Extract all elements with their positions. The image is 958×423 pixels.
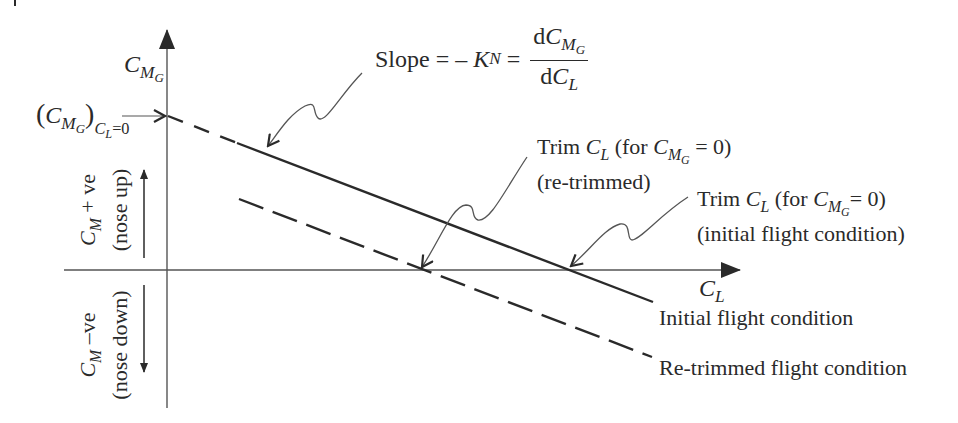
numerator-d: d: [533, 23, 545, 49]
denominator-symbol: C: [552, 63, 568, 89]
trim-diagram: CMG CL (CMG)CL=0 Slope = – KN = dCMG dCL…: [0, 0, 958, 423]
slope-label: Slope = – KN = dCMG dCL: [375, 24, 588, 93]
negative-symbol: C: [75, 363, 100, 378]
trim-initial-label: Trim CL (for CMG= 0) (initial flight con…: [697, 184, 905, 249]
trim-initial-line1: Trim CL (for CMG= 0): [697, 184, 905, 219]
initial-trim-pointer-arrow: [571, 197, 688, 266]
intercept-sub: M: [61, 114, 75, 133]
trim-cond-sub: M: [668, 146, 681, 163]
numerator-sub: M: [561, 35, 575, 54]
slope-k: K: [473, 47, 489, 71]
trim-symbol: C: [586, 134, 601, 159]
slope-k-sub: N: [489, 50, 501, 67]
positive-sub: M: [87, 218, 104, 231]
x-axis-symbol: C: [699, 275, 715, 301]
trim-sub: L: [600, 146, 609, 163]
retrimmed-flight-condition-label: Re-trimmed flight condition: [659, 357, 907, 379]
trim-for: (for: [609, 134, 653, 159]
slope-equals: =: [501, 47, 527, 71]
positive-region-label: CM + ve (nose up): [74, 160, 135, 260]
slope-denominator: dCL: [540, 61, 578, 93]
initial-flight-condition-label: Initial flight condition: [659, 307, 853, 329]
trim-for: (for: [769, 186, 813, 211]
numerator-subsub: G: [576, 42, 585, 57]
numerator-symbol: C: [545, 23, 561, 49]
trim-cond-tail: = 0): [850, 186, 886, 211]
slope-fraction: dCMG dCL: [530, 24, 588, 93]
x-axis-label: CL: [699, 276, 725, 305]
trim-prefix: Trim: [697, 186, 746, 211]
trim-initial-line2: (initial flight condition): [697, 219, 905, 249]
trim-sub: L: [760, 198, 769, 215]
trim-cond-subsub: G: [841, 204, 850, 218]
positive-symbol: C: [75, 231, 100, 246]
positive-region-line1: CM + ve: [74, 160, 106, 260]
y-axis-symbol: C: [124, 51, 140, 77]
trim-cond-symbol: C: [813, 186, 828, 211]
trim-cond-sub: M: [828, 198, 841, 215]
trim-cond-subsub: G: [681, 152, 690, 166]
negative-sub: M: [87, 350, 104, 363]
negative-text: –ve: [75, 312, 100, 349]
intercept-symbol: C: [45, 102, 61, 128]
y-axis-sub: M: [140, 63, 154, 82]
slope-prefix: Slope = –: [375, 47, 473, 71]
denominator-sub: L: [568, 75, 578, 94]
x-axis-sub: L: [715, 287, 725, 306]
negative-region-line1: CM –ve: [74, 280, 106, 410]
denominator-d: d: [540, 63, 552, 89]
negative-note: (nose down): [106, 280, 135, 410]
trim-symbol: C: [746, 186, 761, 211]
retrimmed-trim-pointer-arrow: [422, 157, 527, 267]
positive-text: + ve: [75, 174, 100, 218]
y-axis-label: CMG: [124, 52, 164, 85]
trim-prefix: Trim: [537, 134, 586, 159]
intercept-condition-symbol: C: [94, 119, 105, 138]
intercept-subsub: G: [76, 121, 85, 136]
intercept-condition: CL=0: [94, 119, 129, 138]
slope-numerator: dCMG: [530, 24, 588, 61]
slope-pointer-arrow: [268, 73, 362, 146]
y-axis-subsub: G: [154, 70, 163, 85]
negative-region-label: CM –ve (nose down): [74, 280, 135, 410]
paren-open: (: [36, 98, 45, 129]
trim-cond-symbol: C: [653, 134, 668, 159]
intercept-extension-dashed: [168, 116, 237, 143]
positive-note: (nose up): [106, 160, 135, 260]
trim-cond-tail: = 0): [690, 134, 732, 159]
trim-retrimmed-line1: Trim CL (for CMG = 0): [537, 132, 731, 167]
intercept-condition-eq: =0: [112, 119, 129, 138]
intercept-label: (CMG)CL=0: [36, 100, 129, 140]
